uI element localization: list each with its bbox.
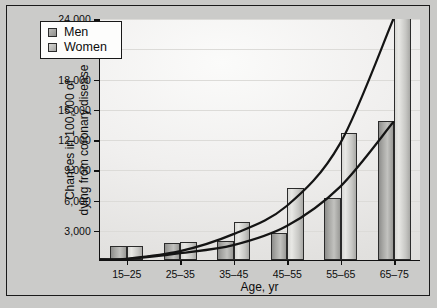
men-swatch-icon [48, 28, 57, 37]
x-axis-tick-label: 55–65 [326, 268, 355, 280]
x-axis-title: Age, yr [99, 280, 420, 294]
y-axis-tick-label: 15,000 [58, 104, 91, 116]
y-axis-tick [94, 170, 100, 172]
women-swatch-icon [48, 43, 57, 52]
y-axis-tick-label: 9,000 [64, 164, 91, 176]
plot-area: 3,0006,0009,00012,00015,00018,00021,0002… [99, 19, 420, 261]
y-axis-tick-label: 18,000 [58, 74, 91, 86]
legend-label-women: Women [64, 41, 107, 54]
trend-curves-layer [100, 19, 420, 260]
trend-curve-men [100, 122, 393, 259]
x-axis-tick-label: 65–75 [380, 268, 409, 280]
legend-item-women: Women [48, 41, 107, 54]
y-axis-tick-label: 3,000 [64, 225, 91, 237]
y-axis-tick [94, 140, 100, 142]
x-axis-tick [341, 260, 343, 265]
plot-inner [100, 19, 420, 260]
y-axis-tick [94, 110, 100, 112]
y-axis-tick-label: 12,000 [58, 134, 91, 146]
x-axis-tick [127, 260, 129, 265]
x-axis-tick-label: 45–55 [273, 268, 302, 280]
x-axis-tick [394, 260, 396, 265]
x-axis-tick-label: 15–25 [112, 268, 141, 280]
x-axis-tick-label: 35–45 [219, 268, 248, 280]
y-axis-tick [94, 80, 100, 82]
trend-curve-women [100, 19, 393, 259]
legend-item-men: Men [48, 26, 107, 39]
figure-frame: Chances in 100,000 of dying from coronar… [6, 5, 430, 296]
x-axis-tick [234, 260, 236, 265]
y-axis-tick [94, 201, 100, 203]
x-axis-tick [180, 260, 182, 265]
y-axis-tick-label: 6,000 [64, 195, 91, 207]
x-axis-tick-label: 25–35 [166, 268, 195, 280]
legend: Men Women [40, 21, 122, 59]
y-axis-tick [94, 231, 100, 233]
x-axis-tick [287, 260, 289, 265]
legend-label-men: Men [64, 26, 88, 39]
